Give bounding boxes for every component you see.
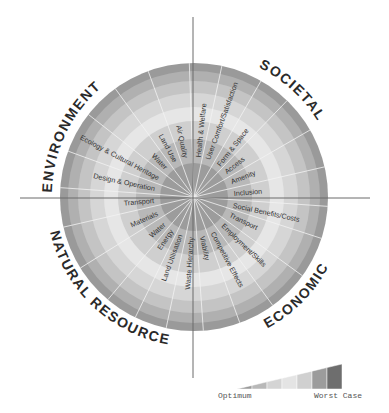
legend-step [327,364,342,389]
legend-max-label: Worst Case [314,391,362,400]
legend-min-label: Optimum [218,391,252,400]
legend-step [312,368,327,389]
legend-step [282,375,297,389]
legend-step [267,378,282,389]
legend-step [237,385,252,389]
sustainability-wheel-figure: Health & WelfareUser Comfort/Satisfactio… [0,0,389,413]
legend: Optimum Worst Case [218,364,362,400]
wheel-diagram: Health & WelfareUser Comfort/Satisfactio… [0,0,389,413]
legend-step [297,371,312,389]
legend-gradient-wedge [237,364,342,389]
legend-step [252,382,267,389]
